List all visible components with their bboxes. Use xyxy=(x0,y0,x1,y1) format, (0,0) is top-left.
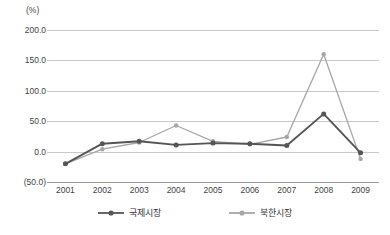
data-point xyxy=(284,143,289,148)
x-tick-label: 2004 xyxy=(167,185,186,195)
x-tick-label: 2006 xyxy=(240,185,259,195)
data-point xyxy=(358,157,362,161)
chart-legend: 국제시장북한시장 xyxy=(0,206,390,219)
y-tick-label: 150.0 xyxy=(2,55,46,65)
y-tick-label: 0.0 xyxy=(2,147,46,157)
data-point xyxy=(63,161,68,166)
x-tick-label: 2007 xyxy=(277,185,296,195)
data-series-layer xyxy=(47,30,379,182)
y-tick-label: (50.0) xyxy=(2,177,46,187)
data-point xyxy=(100,147,104,151)
x-tick-label: 2003 xyxy=(130,185,149,195)
series-line-북한시장 xyxy=(65,54,360,164)
line-chart: (%) 200.0150.0100.050.00.0(50.0) 2001200… xyxy=(0,0,390,235)
y-tick-label: 100.0 xyxy=(2,86,46,96)
gridline--50 xyxy=(47,182,379,183)
data-point xyxy=(211,141,216,146)
data-point xyxy=(174,142,179,147)
data-point xyxy=(321,111,326,116)
data-point xyxy=(247,141,252,146)
data-point xyxy=(174,123,178,127)
x-tick-label: 2005 xyxy=(204,185,223,195)
x-tick-label: 2008 xyxy=(314,185,333,195)
data-point xyxy=(285,135,289,139)
x-tick-label: 2009 xyxy=(351,185,370,195)
y-tick-label: 50.0 xyxy=(2,116,46,126)
data-point xyxy=(137,139,142,144)
data-point xyxy=(322,52,326,56)
legend-item-국제시장[interactable]: 국제시장 xyxy=(98,206,161,219)
legend-marker-icon xyxy=(229,208,255,218)
data-point xyxy=(100,141,105,146)
legend-item-북한시장[interactable]: 북한시장 xyxy=(229,206,292,219)
y-tick-label: 200.0 xyxy=(2,25,46,35)
legend-marker-icon xyxy=(98,208,124,218)
x-tick-label: 2002 xyxy=(93,185,112,195)
series-line-국제시장 xyxy=(65,114,360,164)
x-tick-label: 2001 xyxy=(56,185,75,195)
legend-label: 국제시장 xyxy=(129,206,161,219)
y-axis-unit-label: (%) xyxy=(26,5,39,15)
plot-area: 200.0150.0100.050.00.0(50.0) 20012002200… xyxy=(47,30,379,182)
legend-label: 북한시장 xyxy=(260,206,292,219)
data-point xyxy=(358,150,363,155)
